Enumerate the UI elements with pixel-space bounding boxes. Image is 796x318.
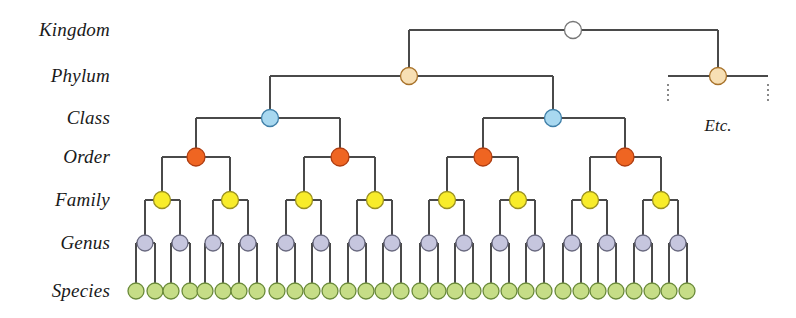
- taxonomy-diagram: KingdomPhylumClassOrderFamilyGenusSpecie…: [0, 0, 796, 318]
- node-order-1: [331, 148, 349, 166]
- node-order-2: [474, 148, 492, 166]
- node-family-6: [582, 192, 599, 209]
- node-phylum-1: [710, 68, 727, 85]
- node-species-4: [197, 283, 213, 299]
- node-species-0: [128, 283, 144, 299]
- node-genus-0: [137, 235, 153, 251]
- node-species-16: [412, 283, 428, 299]
- node-species-25: [573, 283, 589, 299]
- node-genus-5: [313, 235, 329, 251]
- node-species-6: [231, 283, 247, 299]
- node-species-5: [215, 283, 231, 299]
- node-family-2: [296, 192, 313, 209]
- node-species-15: [393, 283, 409, 299]
- node-genus-9: [456, 235, 472, 251]
- node-family-3: [367, 192, 384, 209]
- node-species-30: [661, 283, 677, 299]
- node-genus-11: [527, 235, 543, 251]
- node-family-4: [439, 192, 456, 209]
- node-species-31: [679, 283, 695, 299]
- node-family-5: [510, 192, 527, 209]
- node-family-7: [653, 192, 670, 209]
- node-genus-3: [240, 235, 256, 251]
- node-genus-12: [564, 235, 580, 251]
- node-species-10: [304, 283, 320, 299]
- node-species-7: [249, 283, 265, 299]
- node-order-0: [187, 148, 205, 166]
- taxonomy-tree-canvas: [0, 0, 796, 318]
- node-species-24: [555, 283, 571, 299]
- node-species-13: [358, 283, 374, 299]
- node-species-9: [287, 283, 303, 299]
- node-genus-6: [349, 235, 365, 251]
- node-species-22: [518, 283, 534, 299]
- node-species-27: [608, 283, 624, 299]
- node-species-11: [322, 283, 338, 299]
- node-species-17: [430, 283, 446, 299]
- node-species-19: [465, 283, 481, 299]
- node-genus-7: [384, 235, 400, 251]
- node-species-14: [375, 283, 391, 299]
- node-genus-15: [670, 235, 686, 251]
- node-family-0: [154, 192, 171, 209]
- node-species-1: [147, 283, 163, 299]
- node-species-12: [340, 283, 356, 299]
- node-genus-2: [205, 235, 221, 251]
- node-species-18: [447, 283, 463, 299]
- node-phylum-0: [401, 68, 418, 85]
- node-genus-1: [172, 235, 188, 251]
- node-kingdom-0: [565, 22, 582, 39]
- node-class-1: [545, 110, 562, 127]
- node-genus-10: [492, 235, 508, 251]
- node-species-2: [163, 283, 179, 299]
- node-genus-4: [278, 235, 294, 251]
- node-species-3: [182, 283, 198, 299]
- node-family-1: [222, 192, 239, 209]
- node-genus-8: [421, 235, 437, 251]
- node-genus-13: [599, 235, 615, 251]
- node-order-3: [616, 148, 634, 166]
- node-species-21: [501, 283, 517, 299]
- node-genus-14: [635, 235, 651, 251]
- node-species-26: [590, 283, 606, 299]
- node-species-29: [644, 283, 660, 299]
- node-species-23: [536, 283, 552, 299]
- node-species-28: [626, 283, 642, 299]
- node-species-8: [269, 283, 285, 299]
- etc-label: Etc.: [705, 116, 732, 136]
- node-species-20: [483, 283, 499, 299]
- node-class-0: [262, 110, 279, 127]
